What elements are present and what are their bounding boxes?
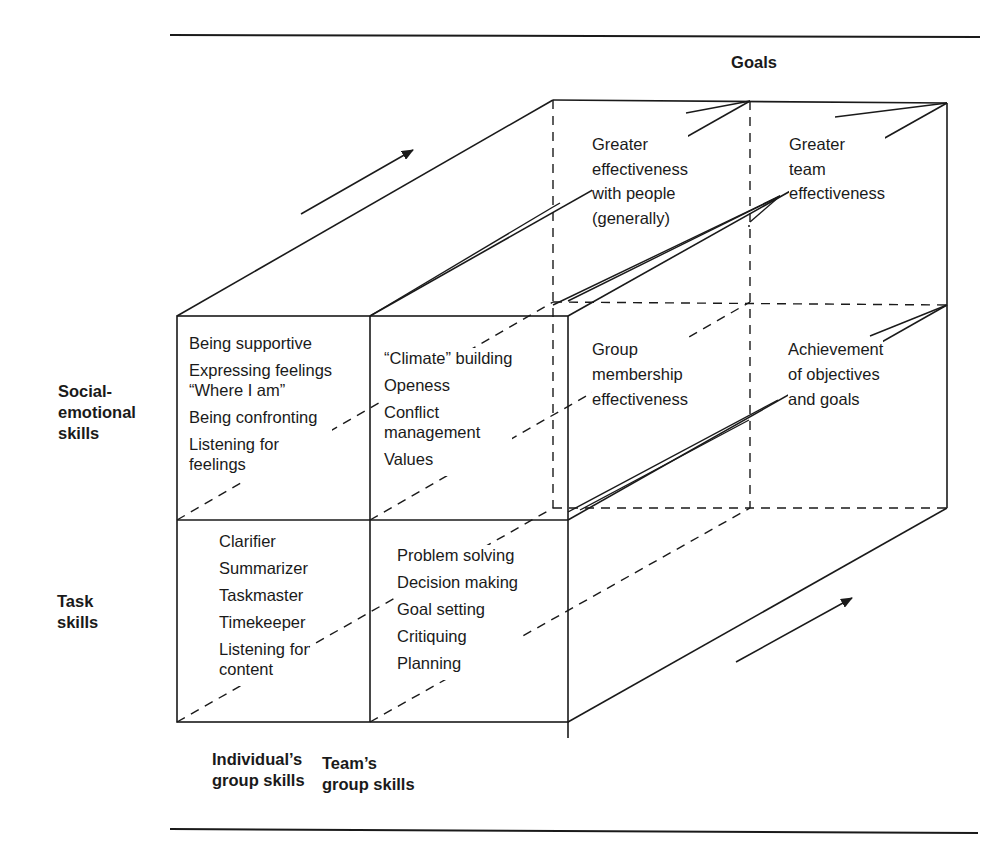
skill-item: Expressing feelings “Where I am” — [189, 360, 332, 400]
bottom-rule — [170, 829, 978, 833]
skill-item: “Climate” building — [384, 348, 512, 368]
cell-individual-task: Clarifier Summarizer Taskmaster Timekeep… — [219, 531, 309, 686]
skill-item: Listening for feelings — [189, 434, 332, 474]
goal-top-right: Greater team effectiveness — [789, 132, 885, 206]
column-label-team: Team’s group skills — [322, 753, 415, 795]
skill-item: Being supportive — [189, 333, 332, 353]
column-label-individual: Individual’s group skills — [212, 749, 305, 791]
skill-item: Timekeeper — [219, 612, 309, 632]
cell-team-task: Problem solving Decision making Goal set… — [397, 545, 518, 680]
skill-item: Goal setting — [397, 599, 518, 619]
row-label-task: Task skills — [57, 591, 98, 633]
top-rule — [170, 35, 980, 37]
skill-item: Critiquing — [397, 626, 518, 646]
skill-item: Conflict management — [384, 402, 512, 442]
skill-item: Taskmaster — [219, 585, 309, 605]
depth-arrow-top — [301, 150, 413, 214]
skill-item: Listening for content — [219, 639, 309, 679]
depth-arrow-bottom — [736, 598, 852, 662]
skill-item: Planning — [397, 653, 518, 673]
row-label-social-emotional: Social- emotional skills — [58, 381, 136, 444]
skill-item: Being confronting — [189, 407, 332, 427]
skill-item: Problem solving — [397, 545, 518, 565]
goal-front-left: Group membership effectiveness — [592, 337, 688, 412]
skill-item: Summarizer — [219, 558, 309, 578]
skill-item: Values — [384, 449, 512, 469]
skill-item: Clarifier — [219, 531, 309, 551]
goal-top-left: Greater effectiveness with people (gener… — [592, 132, 688, 230]
cell-team-social: “Climate” building Openess Conflict mana… — [384, 348, 512, 476]
cell-individual-social: Being supportive Expressing feelings “Wh… — [189, 333, 332, 481]
skill-item: Decision making — [397, 572, 518, 592]
goal-front-right: Achievement of objectives and goals — [788, 337, 883, 412]
goals-title: Goals — [516, 52, 992, 73]
skill-item: Openess — [384, 375, 512, 395]
